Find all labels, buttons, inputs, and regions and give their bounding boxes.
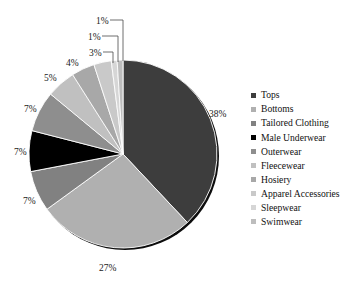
legend-swatch-icon [251, 205, 256, 210]
legend-item[interactable]: Apparel Accessories [251, 187, 359, 201]
legend-swatch-icon [251, 219, 256, 224]
slice-percent-label: 38% [209, 109, 227, 119]
legend-item[interactable]: Bottoms [251, 102, 359, 116]
legend-swatch-icon [251, 177, 256, 182]
legend-item-label: Fleecewear [261, 161, 305, 171]
legend-item-label: Apparel Accessories [261, 189, 340, 199]
legend-swatch-icon [251, 107, 256, 112]
legend-item[interactable]: Hosiery [251, 173, 359, 187]
legend-item[interactable]: Tops [251, 88, 359, 102]
slice-percent-label: 27% [99, 263, 117, 273]
slice-percent-label: 4% [66, 58, 79, 68]
legend-swatch-icon [251, 149, 256, 154]
chart-legend: TopsBottomsTailored ClothingMale Underwe… [251, 88, 359, 229]
slice-percent-label: 3% [89, 48, 102, 58]
pie-chart-figure: 38%27%7%7%7%5%4%3%1%1% TopsBottomsTailor… [0, 0, 359, 285]
legend-item[interactable]: Male Underwear [251, 130, 359, 144]
slice-percent-label: 7% [14, 147, 27, 157]
legend-item-label: Outerwear [261, 147, 301, 157]
callout-leader-line [110, 20, 123, 61]
legend-item[interactable]: Outerwear [251, 144, 359, 158]
legend-item-label: Bottoms [261, 104, 294, 114]
slice-percent-label: 7% [24, 104, 37, 114]
legend-item[interactable]: Fleecewear [251, 158, 359, 172]
callout-leader-group [102, 20, 123, 63]
legend-item-label: Sleepwear [261, 203, 301, 213]
pie-slice-group [29, 60, 217, 248]
legend-item[interactable]: Sleepwear [251, 201, 359, 215]
legend-item-label: Hosiery [261, 175, 291, 185]
slice-percent-label: 7% [23, 196, 36, 206]
legend-swatch-icon [251, 163, 256, 168]
legend-swatch-icon [251, 93, 256, 98]
legend-item[interactable]: Tailored Clothing [251, 116, 359, 130]
callout-leader-line [102, 36, 118, 62]
legend-item-label: Tops [261, 90, 280, 100]
legend-item-label: Tailored Clothing [261, 118, 329, 128]
slice-percent-label: 1% [96, 16, 109, 26]
slice-percent-label: 1% [88, 32, 101, 42]
legend-item[interactable]: Swimwear [251, 215, 359, 229]
legend-item-label: Swimwear [261, 217, 302, 227]
slice-percent-label: 5% [44, 73, 57, 83]
legend-swatch-icon [251, 191, 256, 196]
legend-swatch-icon [251, 135, 256, 140]
legend-swatch-icon [251, 121, 256, 126]
legend-item-label: Male Underwear [261, 133, 326, 143]
